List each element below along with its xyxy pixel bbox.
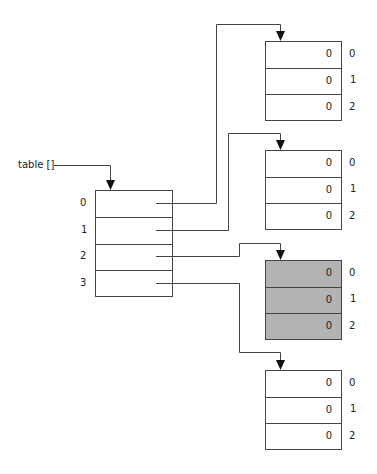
variable-label: table []: [18, 159, 54, 171]
pointer-row-0: [156, 25, 281, 204]
sub-array-cell: 0: [266, 287, 341, 314]
main-array-cell-1: [96, 217, 172, 244]
sub-index: 2: [349, 101, 355, 112]
sub-array-3: 0 0 0: [265, 370, 342, 450]
cell-value: 0: [326, 48, 332, 59]
main-index-3: 3: [80, 277, 86, 288]
sub-index: 1: [350, 74, 356, 85]
sub-array-cell: 0: [266, 371, 341, 398]
sub-index: 1: [350, 183, 356, 194]
pointer-row-1: [156, 134, 281, 231]
main-index-2: 2: [80, 250, 86, 261]
sub-array-cell: 0: [266, 68, 341, 95]
cell-value: 0: [326, 210, 332, 221]
arrowhead-icon: [276, 140, 285, 150]
sub-array-2-highlighted: 0 0 0: [265, 260, 342, 340]
sub-index: 0: [349, 157, 355, 168]
cell-value: 0: [326, 377, 332, 388]
sub-array-cell: 0: [266, 423, 341, 450]
main-array-cell-3: [96, 270, 172, 297]
pointer-row-3: [156, 284, 281, 361]
cell-value: 0: [326, 157, 332, 168]
arrowhead-icon: [276, 31, 285, 41]
sub-index: 1: [350, 293, 356, 304]
sub-array-cell: 0: [266, 397, 341, 424]
sub-index: 1: [350, 403, 356, 414]
sub-index: 0: [349, 267, 355, 278]
sub-index: 2: [349, 210, 355, 221]
sub-index: 0: [349, 377, 355, 388]
main-array-cell-2: [96, 244, 172, 271]
arrowhead-icon: [276, 360, 285, 370]
cell-value: 0: [326, 404, 332, 415]
sub-array-cell: 0: [266, 42, 341, 69]
cell-value: 0: [326, 430, 332, 441]
main-array: [95, 190, 173, 297]
variable-arrow: [54, 166, 111, 181]
sub-array-cell: 0: [266, 177, 341, 204]
cell-value: 0: [326, 320, 332, 331]
cell-value: 0: [326, 75, 332, 86]
main-index-1: 1: [81, 224, 87, 235]
pointer-row-2: [156, 244, 281, 257]
sub-index: 2: [349, 430, 355, 441]
sub-array-cell: 0: [266, 313, 341, 340]
cell-value: 0: [326, 101, 332, 112]
main-index-0: 0: [80, 197, 86, 208]
sub-array-cell: 0: [266, 151, 341, 178]
cell-value: 0: [326, 267, 332, 278]
sub-array-0: 0 0 0: [265, 41, 342, 121]
sub-array-cell: 0: [266, 261, 341, 288]
sub-index: 2: [349, 320, 355, 331]
arrowhead-icon: [106, 180, 115, 190]
main-array-cell-0: [96, 191, 172, 218]
sub-index: 0: [349, 48, 355, 59]
cell-value: 0: [326, 184, 332, 195]
arrowhead-icon: [276, 250, 285, 260]
sub-array-cell: 0: [266, 203, 341, 230]
sub-array-cell: 0: [266, 94, 341, 121]
sub-array-1: 0 0 0: [265, 150, 342, 230]
cell-value: 0: [326, 294, 332, 305]
